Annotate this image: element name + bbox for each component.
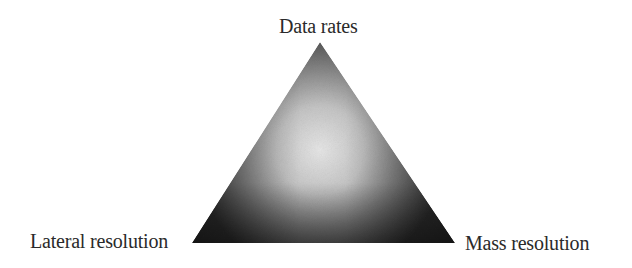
- triangle-right-shade: [192, 42, 455, 243]
- tradeoff-triangle: [0, 0, 632, 268]
- vertex-label-lateral-resolution: Lateral resolution: [30, 231, 168, 251]
- vertex-label-mass-resolution: Mass resolution: [465, 233, 589, 253]
- vertex-label-data-rates: Data rates: [279, 16, 358, 36]
